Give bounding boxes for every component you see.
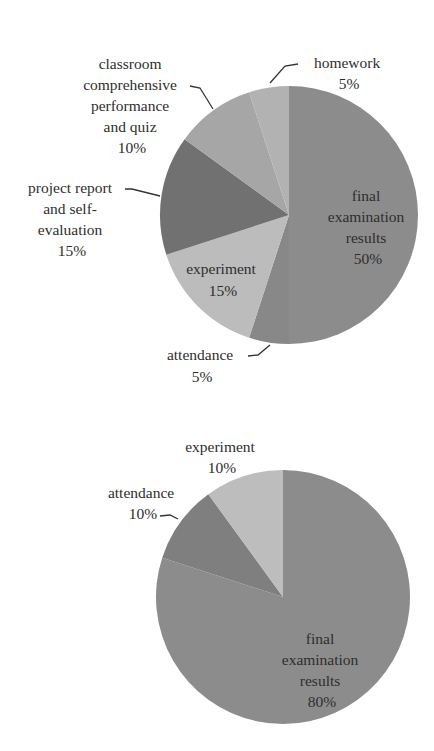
label-project: project report and self- evaluation 15% [28,179,116,259]
label-classroom: classroom comprehensive performance and … [83,55,181,156]
leader-attendance-2 [160,515,178,519]
leader-classroom [190,86,213,109]
leader-attendance [248,345,270,356]
label-experiment-2: experiment 10% [185,438,259,476]
pie-chart-2 [156,470,410,724]
pie-charts-canvas: classroom comprehensive performance and … [0,0,434,751]
label-attendance-1: attendance 5% [167,346,237,385]
chart2-leader-lines [160,515,178,519]
label-homework: homework 5% [314,54,384,92]
leader-project [125,189,160,196]
label-attendance-2: attendance 10% [108,484,178,522]
leader-homework [270,64,298,83]
